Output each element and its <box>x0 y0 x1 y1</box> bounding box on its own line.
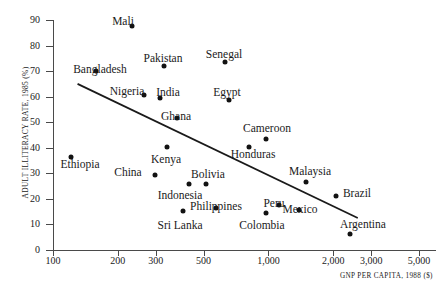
data-point <box>264 137 269 142</box>
data-point-label: Philippines <box>190 201 242 213</box>
data-point-label: Nigeria <box>110 86 144 98</box>
data-point-label: Bolivia <box>191 169 225 181</box>
data-point <box>204 182 209 187</box>
data-point-label: Ghana <box>161 111 191 123</box>
data-point-label: Colombia <box>239 220 284 232</box>
data-point-label: Malaysia <box>289 166 331 178</box>
data-point <box>165 145 170 150</box>
data-point-label: Mexico <box>282 204 317 216</box>
data-point <box>304 180 309 185</box>
data-point-label: Sri Lanka <box>157 220 202 232</box>
data-point-label: India <box>156 87 180 99</box>
data-point-label: Brazil <box>343 188 371 200</box>
data-point-label: Argentina <box>340 219 386 231</box>
data-point <box>153 173 158 178</box>
data-point-label: Honduras <box>231 149 276 161</box>
data-point <box>334 194 339 199</box>
data-point <box>181 209 186 214</box>
scatter-chart-figure: 0102030405060708090 1002003005001,0002,0… <box>0 0 448 297</box>
data-point-label: Egypt <box>213 87 240 99</box>
data-point-label: Senegal <box>206 49 242 61</box>
data-point-label: Mali <box>112 16 134 28</box>
data-point <box>264 211 269 216</box>
data-point <box>348 232 353 237</box>
data-point-label: Bangladesh <box>73 64 127 76</box>
data-point <box>187 182 192 187</box>
data-point-label: Kenya <box>151 154 181 166</box>
data-point-label: Cameroon <box>243 123 291 135</box>
plot-area: MaliBangladeshPakistanSenegalNigeriaIndi… <box>0 0 448 297</box>
data-point <box>162 64 167 69</box>
data-point-label: Peru <box>263 198 284 210</box>
data-point-label: Ethiopia <box>61 159 100 171</box>
data-point-label: China <box>114 167 141 179</box>
data-point <box>223 60 228 65</box>
data-point-label: Pakistan <box>144 53 183 65</box>
